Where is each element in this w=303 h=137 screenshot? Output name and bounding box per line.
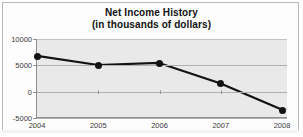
x-axis-label: 2007: [212, 121, 229, 130]
data-point-marker: [279, 107, 286, 114]
x-axis-label: 2006: [151, 121, 168, 130]
chart-figure: Net Income History (in thousands of doll…: [0, 0, 303, 137]
x-axis-label: 2004: [29, 121, 46, 130]
chart-title: Net Income History (in thousands of doll…: [0, 7, 303, 31]
y-gridline: [37, 92, 287, 93]
y-axis-label: 5000: [15, 61, 32, 70]
y-axis-tick: [33, 118, 37, 119]
y-axis-tick: [33, 92, 37, 93]
y-gridline: [37, 118, 287, 119]
chart-title-subtitle: (in thousands of dollars): [0, 19, 303, 31]
series-line: [37, 39, 287, 117]
figure-bottom-edge: [2, 130, 299, 133]
x-axis-label: 2008: [274, 121, 291, 130]
y-axis-label: 0: [28, 87, 32, 96]
plot-area: 1000050000-500020042005200620072008: [36, 39, 287, 118]
data-point-marker: [34, 53, 41, 60]
x-axis-tick: [160, 90, 161, 94]
data-point-marker: [95, 62, 102, 69]
y-axis-tick: [33, 39, 37, 40]
y-axis-label: 10000: [11, 35, 32, 44]
y-axis-tick: [33, 65, 37, 66]
y-gridline: [37, 39, 287, 40]
x-axis-tick: [98, 90, 99, 94]
x-axis-label: 2005: [90, 121, 107, 130]
chart-title-main: Net Income History: [0, 7, 303, 19]
x-axis-tick: [221, 90, 222, 94]
data-point-marker: [156, 60, 163, 67]
